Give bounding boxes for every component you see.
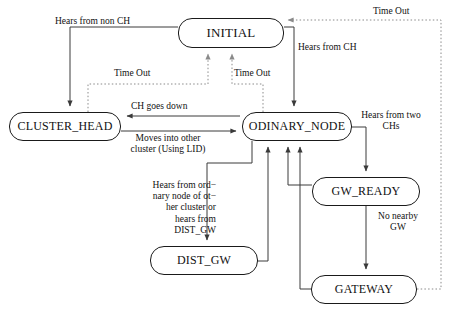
edge-label-ch-goes-down: CH goes down [131, 101, 221, 112]
edge-label-no-nearby-gw: No nearby GW [370, 211, 426, 233]
state-cluster-head[interactable]: CLUSTER_HEAD [9, 112, 121, 141]
state-initial[interactable]: INITIAL [178, 18, 284, 48]
state-dist-gw-label: DIST_GW [177, 253, 231, 268]
state-odinary-node-label: ODINARY_NODE [249, 119, 345, 134]
edge-gateway-to-initial [288, 20, 441, 289]
edge-gateway-to-odinary [300, 147, 311, 289]
edge-label-moves-into-other-cluster: Moves into other cluster (Using LID) [112, 133, 224, 155]
edge-label-hears-from-two-chs: Hears from two CHs [352, 110, 430, 132]
edge-label-time-out-top-right: Time Out [373, 6, 433, 17]
state-cluster-head-label: CLUSTER_HEAD [17, 119, 112, 134]
state-gw-ready-label: GW_READY [332, 184, 401, 199]
edge-label-hears-from-ch: Hears from CH [298, 42, 383, 53]
state-gateway-label: GATEWAY [335, 282, 393, 297]
state-initial-label: INITIAL [206, 25, 255, 41]
edge-label-hears-from-ordinary-node: Hears from ord− nary node of ot− her clu… [140, 180, 216, 236]
state-gw-ready[interactable]: GW_READY [312, 177, 420, 206]
edge-initial-to-odinary [284, 27, 294, 106]
edge-dist-gw-to-odinary [258, 147, 268, 261]
edge-odinary-to-initial [232, 54, 263, 112]
state-diagram-canvas: INITIAL CLUSTER_HEAD ODINARY_NODE GW_REA… [0, 0, 451, 312]
state-dist-gw[interactable]: DIST_GW [150, 246, 258, 275]
edge-odinary-to-gw-ready [352, 127, 366, 171]
state-gateway[interactable]: GATEWAY [311, 275, 417, 304]
edge-label-time-out-left: Time Out [114, 68, 166, 79]
edge-label-hears-from-non-ch: Hears from non CH [55, 16, 185, 27]
edge-initial-to-cluster-head [70, 27, 178, 106]
edge-label-time-out-mid: Time Out [234, 68, 286, 79]
state-odinary-node[interactable]: ODINARY_NODE [242, 112, 352, 141]
